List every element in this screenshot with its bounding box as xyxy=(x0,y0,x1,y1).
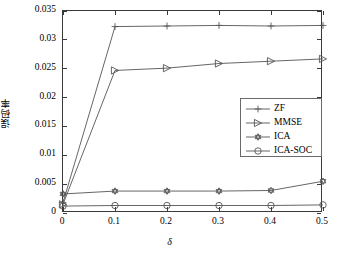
legend-item-ica: ICA xyxy=(241,130,321,144)
legend-sample xyxy=(245,145,271,157)
legend: ZFMMSEICAICA-SOC xyxy=(240,98,322,157)
y-axis-tick xyxy=(63,11,67,12)
x-axis-tick xyxy=(63,207,64,211)
series-line xyxy=(63,205,323,206)
y-axis-tick xyxy=(63,39,67,40)
y-axis-tick xyxy=(317,68,321,69)
series-ica xyxy=(60,178,326,197)
x-axis-tick xyxy=(323,207,324,211)
y-axis-tick xyxy=(63,126,67,127)
x-axis-tick xyxy=(219,207,220,211)
plus-marker xyxy=(216,22,223,29)
y-axis-tick xyxy=(63,68,67,69)
x-axis-tick-label: 0.3 xyxy=(212,217,224,227)
y-axis-tick xyxy=(63,184,67,185)
legend-label: ZF xyxy=(274,104,285,114)
legend-sample xyxy=(245,117,271,129)
plus-icon xyxy=(245,103,271,115)
x-axis-tick-label: 0.5 xyxy=(316,217,328,227)
hexagram-icon xyxy=(245,131,271,143)
y-axis-tick xyxy=(63,97,67,98)
x-axis-tick xyxy=(167,207,168,211)
legend-label: MMSE xyxy=(274,118,302,128)
x-axis-tick-label: 0 xyxy=(60,217,65,227)
y-axis-tick xyxy=(63,155,67,156)
y-axis-tick xyxy=(317,184,321,185)
legend-item-zf: ZF xyxy=(241,102,321,116)
circle-icon xyxy=(245,145,271,157)
y-axis-tick-label: 0.025 xyxy=(0,63,56,73)
x-axis-tick-label: 0.2 xyxy=(160,217,172,227)
x-axis-tick xyxy=(271,207,272,211)
y-axis-tick-label: 0.035 xyxy=(0,5,56,15)
triangle-right-icon xyxy=(245,117,271,129)
x-axis-tick-label: 0.4 xyxy=(264,217,276,227)
y-axis-tick xyxy=(317,213,321,214)
x-axis-tick-label: 0.1 xyxy=(108,217,120,227)
legend-label: ICA-SOC xyxy=(274,146,312,156)
y-axis-tick-label: 0.005 xyxy=(0,178,56,188)
plus-marker xyxy=(320,22,327,29)
x-axis-tick xyxy=(323,11,324,15)
y-axis-tick-label: 0 xyxy=(0,207,56,217)
y-axis-tick xyxy=(317,39,321,40)
plus-marker xyxy=(112,23,119,30)
y-axis-tick-label: 0.03 xyxy=(0,34,56,44)
x-axis-tick xyxy=(115,11,116,15)
x-axis-tick xyxy=(271,11,272,15)
y-axis-tick-label: 0.015 xyxy=(0,120,56,130)
legend-item-ica-soc: ICA-SOC xyxy=(241,144,321,158)
y-axis-tick xyxy=(317,11,321,12)
x-axis-tick xyxy=(219,11,220,15)
legend-label: ICA xyxy=(274,132,290,142)
x-axis-tick xyxy=(115,207,116,211)
plus-marker xyxy=(164,23,171,30)
plus-marker xyxy=(268,23,275,30)
figure: 误码率 00.0050.010.0150.020.0250.030.035 00… xyxy=(0,0,339,260)
x-axis-tick xyxy=(63,11,64,15)
plus-marker xyxy=(255,106,262,113)
series-line xyxy=(63,181,323,194)
legend-item-mmse: MMSE xyxy=(241,116,321,130)
y-axis-tick xyxy=(63,213,67,214)
legend-sample xyxy=(245,131,271,143)
legend-sample xyxy=(245,103,271,115)
x-axis-title: δ xyxy=(0,236,339,247)
x-axis-tick xyxy=(167,11,168,15)
y-axis-tick-label: 0.02 xyxy=(0,92,56,102)
series-ica-soc xyxy=(60,202,326,210)
y-axis-tick-label: 0.01 xyxy=(0,149,56,159)
